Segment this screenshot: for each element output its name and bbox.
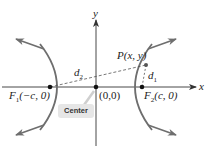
distance-d2-line xyxy=(50,65,146,87)
x-axis-label: x xyxy=(199,81,204,92)
point-p-label: P(x, y) xyxy=(117,50,146,61)
focus-f2-label: F2(c, 0) xyxy=(144,90,177,104)
diagram-canvas xyxy=(0,0,207,151)
distance-d1-line xyxy=(142,65,146,87)
d1-label: d1 xyxy=(148,70,157,84)
hyperbola-diagram: y x P(x, y) d2 d1 F1(−c, 0) (0,0) F2(c, … xyxy=(0,0,207,151)
center-callout-leader xyxy=(84,91,94,105)
point-p xyxy=(144,63,148,67)
focus-f1-label: F1(−c, 0) xyxy=(9,90,50,104)
center-callout: Center xyxy=(58,104,94,118)
y-axis-label: y xyxy=(93,8,98,19)
origin-label: (0,0) xyxy=(99,90,120,101)
center-point xyxy=(94,85,99,90)
d2-label: d2 xyxy=(74,67,83,81)
